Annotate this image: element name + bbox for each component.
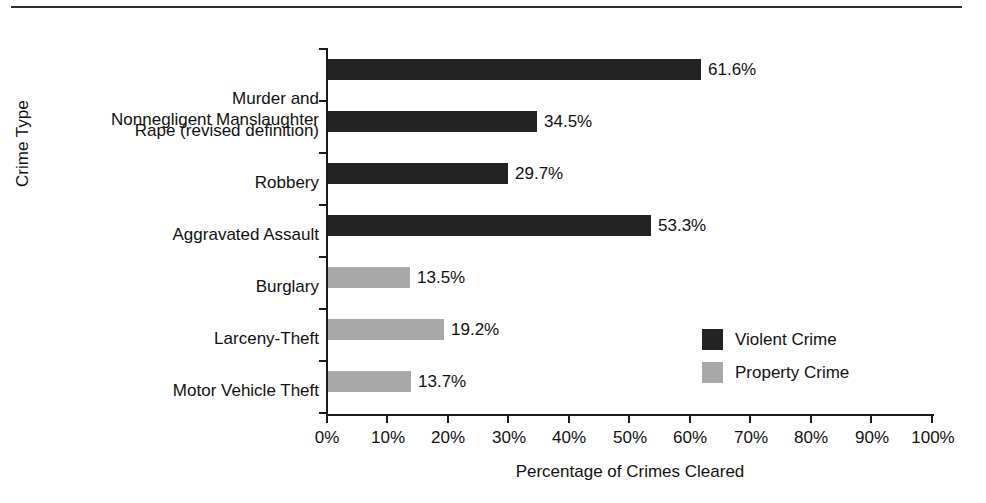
x-axis-tick (628, 414, 630, 423)
page-top-rule (11, 6, 962, 8)
category-label-aggravated-assault: Aggravated Assault (173, 224, 319, 245)
y-axis-tick (319, 256, 327, 258)
category-label-motor-vehicle-theft: Motor Vehicle Theft (173, 380, 319, 401)
value-label-robbery: 29.7% (515, 163, 563, 184)
legend-item-violent-crime[interactable]: Violent Crime (702, 323, 849, 356)
value-label-burglary: 13.5% (417, 267, 465, 288)
x-axis-tick (870, 414, 872, 423)
y-axis-tick (319, 48, 327, 50)
x-tick-label: 100% (911, 428, 954, 448)
x-axis-tick (447, 414, 449, 423)
x-axis-tick (810, 414, 812, 423)
bar-motor-vehicle-theft[interactable] (328, 371, 411, 392)
x-axis-tick (568, 414, 570, 423)
y-axis-tick (319, 360, 327, 362)
x-tick-label: 90% (855, 428, 889, 448)
y-axis-tick (319, 204, 327, 206)
x-axis-tick (326, 414, 328, 423)
category-label-robbery: Robbery (255, 172, 319, 193)
legend-label: Property Crime (735, 363, 849, 383)
value-label-rape: 34.5% (544, 111, 592, 132)
x-tick-label: 40% (552, 428, 586, 448)
x-axis-tick-labels: 0% 10% 20% 30% 40% 50% 60% 70% 80% 90% 1… (0, 428, 986, 452)
y-axis-category-labels: Murder and Nonnegligent Manslaughter Rap… (0, 48, 319, 414)
x-axis-tick (931, 414, 933, 423)
x-tick-label: 10% (371, 428, 405, 448)
value-label-larceny-theft: 19.2% (451, 319, 499, 340)
x-axis-tick (749, 414, 751, 423)
x-tick-label: 0% (315, 428, 340, 448)
y-axis-tick (319, 100, 327, 102)
bar-robbery[interactable] (328, 163, 508, 184)
bar-murder[interactable] (328, 59, 701, 80)
bar-burglary[interactable] (328, 267, 410, 288)
plot-area: 61.6% 34.5% 29.7% 53.3% 13.5% 19.2% 13.7… (327, 48, 933, 414)
x-axis-title: Percentage of Crimes Cleared (327, 462, 933, 482)
x-tick-label: 30% (492, 428, 526, 448)
bar-chart-figure: Crime Type Murder and Nonnegligent Mansl… (0, 0, 986, 503)
bar-aggravated-assault[interactable] (328, 215, 651, 236)
x-tick-label: 80% (794, 428, 828, 448)
value-label-aggravated-assault: 53.3% (658, 215, 706, 236)
legend: Violent Crime Property Crime (702, 323, 849, 389)
value-label-motor-vehicle-theft: 13.7% (418, 371, 466, 392)
x-tick-label: 70% (734, 428, 768, 448)
x-tick-label: 50% (613, 428, 647, 448)
value-label-murder: 61.6% (708, 59, 756, 80)
x-tick-label: 20% (431, 428, 465, 448)
legend-label: Violent Crime (735, 330, 837, 350)
category-label-rape: Rape (revised definition) (135, 120, 319, 141)
x-tick-label: 60% (673, 428, 707, 448)
bar-larceny-theft[interactable] (328, 319, 444, 340)
bar-rape[interactable] (328, 111, 537, 132)
category-label-burglary: Burglary (256, 276, 319, 297)
x-axis-tick (689, 414, 691, 423)
legend-swatch-icon (702, 362, 723, 383)
legend-swatch-icon (702, 329, 723, 350)
x-axis-tick (386, 414, 388, 423)
legend-item-property-crime[interactable]: Property Crime (702, 356, 849, 389)
y-axis-tick (319, 308, 327, 310)
x-axis-tick (507, 414, 509, 423)
category-label-larceny-theft: Larceny-Theft (214, 328, 319, 349)
x-axis-line (326, 414, 934, 416)
y-axis-tick (319, 152, 327, 154)
